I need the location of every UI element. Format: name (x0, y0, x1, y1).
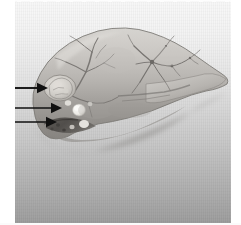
page-margin-right (231, 0, 241, 225)
page-margin-left (0, 0, 15, 225)
figure-container (0, 0, 241, 225)
page-margin-bottom (0, 223, 241, 225)
annotation-arrows (0, 0, 241, 225)
